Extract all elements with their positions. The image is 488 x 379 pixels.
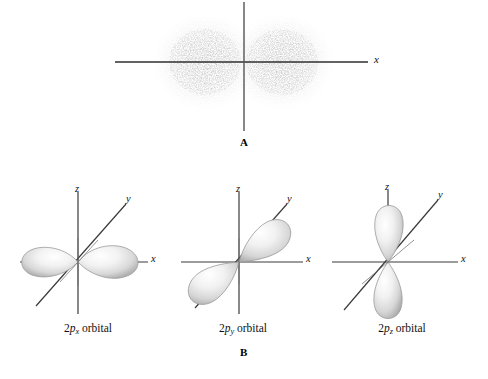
caption-2px-sub: x xyxy=(75,327,79,336)
orbital-2px-diagram: z y x xyxy=(8,178,168,328)
panel-a-electron-density: x xyxy=(100,0,400,150)
caption-2pz-var: p xyxy=(384,322,390,334)
panel-letter-a: A xyxy=(240,137,248,148)
orbital-2pz-y-label: y xyxy=(438,190,443,201)
orbital-2py-caption: 2py orbital xyxy=(163,322,323,335)
caption-2py-suffix: orbital xyxy=(234,322,267,334)
orbital-2pz-z-label: z xyxy=(385,182,389,193)
orbital-2py-z-label: z xyxy=(236,184,240,195)
orbital-2px-y-label: y xyxy=(126,194,131,205)
panel-a-x-axis-label: x xyxy=(374,54,379,65)
orbital-2px-lobes xyxy=(22,246,138,279)
orbital-2pz-caption: 2pz orbital xyxy=(322,322,482,335)
orbital-2px-z-label: z xyxy=(75,184,79,195)
orbital-2px-x-label: x xyxy=(151,254,156,265)
caption-2px-suffix: orbital xyxy=(79,322,112,334)
orbital-2px-drawing xyxy=(8,178,168,328)
caption-2pz-sub: z xyxy=(390,327,393,336)
orbital-2px-caption: 2px orbital xyxy=(8,322,168,335)
electron-density-dot-plot xyxy=(100,0,400,150)
orbital-2py-drawing xyxy=(163,178,323,328)
orbital-2py-x-label: x xyxy=(306,254,311,265)
orbital-figure: x A xyxy=(0,0,488,379)
caption-2pz-suffix: orbital xyxy=(393,322,426,334)
panel-letter-b: B xyxy=(240,347,247,358)
orbital-2pz-x-label: x xyxy=(461,254,466,265)
orbital-2pz-drawing xyxy=(322,178,482,328)
orbital-2pz-diagram: z y x xyxy=(322,178,482,328)
orbital-2py-diagram: z y x xyxy=(163,178,323,328)
orbital-2py-y-label: y xyxy=(287,194,292,205)
caption-2py-sub: y xyxy=(230,327,234,336)
